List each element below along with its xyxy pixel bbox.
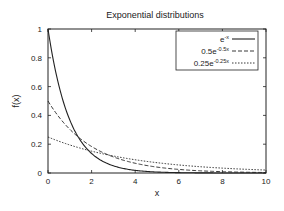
y-axis-label: f(x) bbox=[11, 95, 21, 108]
x-tick-label: 4 bbox=[133, 177, 138, 186]
y-tick-label: 0.4 bbox=[31, 111, 43, 120]
y-tick-label: 0.6 bbox=[31, 83, 43, 92]
x-tick-label: 8 bbox=[220, 177, 225, 186]
x-tick-label: 6 bbox=[177, 177, 182, 186]
y-tick-label: 1 bbox=[38, 25, 43, 34]
x-tick-label: 0 bbox=[46, 177, 51, 186]
series-line bbox=[48, 137, 266, 170]
x-tick-label: 10 bbox=[262, 177, 271, 186]
y-tick-label: 0.8 bbox=[31, 54, 43, 63]
series-line bbox=[48, 101, 266, 173]
y-tick-label: 0.2 bbox=[31, 140, 43, 149]
chart: Exponential distributions 00.20.40.60.81… bbox=[0, 0, 284, 211]
legend: e-x0.5e-0.5x0.25e-0.25x bbox=[176, 31, 258, 70]
y-tick-label: 0 bbox=[38, 169, 43, 178]
x-axis-label: x bbox=[155, 188, 160, 198]
chart-title: Exponential distributions bbox=[106, 10, 204, 20]
x-tick-label: 2 bbox=[89, 177, 94, 186]
